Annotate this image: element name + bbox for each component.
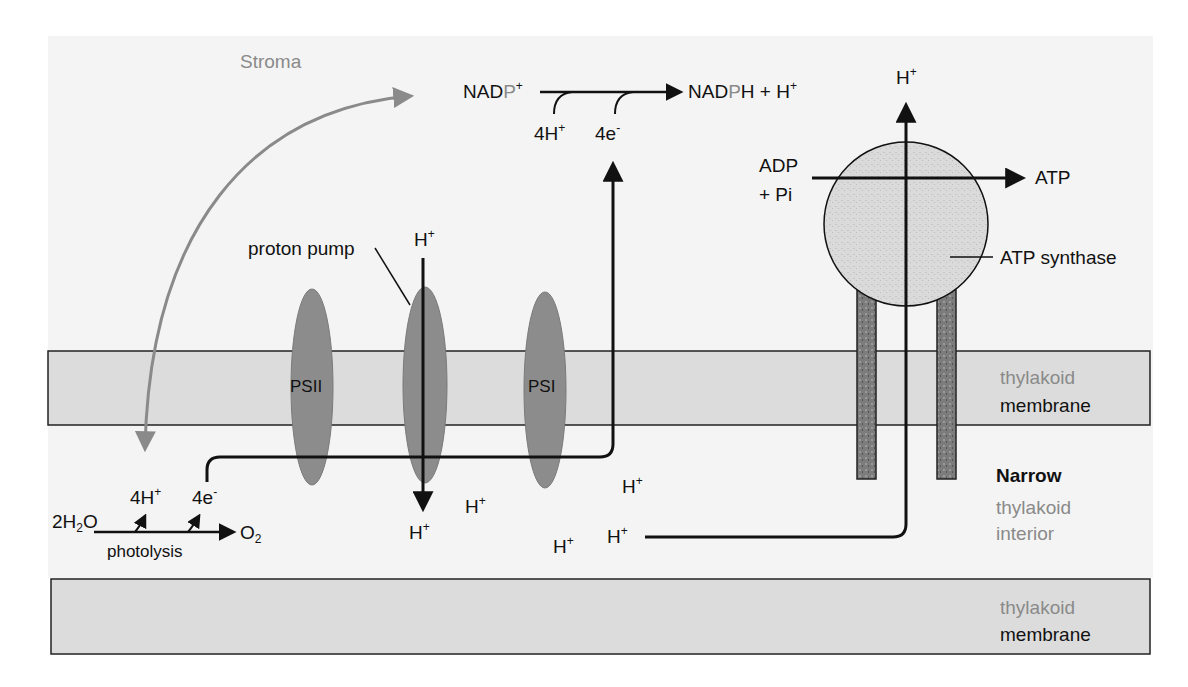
h-charge: + — [423, 520, 430, 534]
interior-label-2: thylakoid — [996, 498, 1071, 517]
nadp-electrons-label: 4e- — [595, 124, 620, 143]
water-o: O — [83, 511, 98, 532]
h-text: H — [414, 229, 428, 250]
h-text: H — [465, 496, 479, 517]
water-sub: 2 — [76, 521, 83, 535]
nadp-protons-text: 4H — [534, 123, 558, 144]
nadph-p: P — [728, 81, 741, 102]
oxygen-label: O2 — [240, 523, 261, 542]
interior-label-1: Narrow — [996, 466, 1061, 485]
h-text: H — [622, 476, 636, 497]
nadph-product-label: NADPH + H+ — [688, 82, 797, 101]
photolysis-electrons-charge: - — [213, 485, 217, 499]
proton-interior-4: H+ — [553, 537, 574, 556]
atp-synthase-stalk-right — [937, 290, 956, 479]
water-label: 2H2O — [52, 512, 98, 531]
proton-interior-1: H+ — [409, 523, 430, 542]
photolysis-electron-out — [188, 516, 199, 532]
photolysis-electrons-text: 4e — [192, 487, 213, 508]
atp-proton-out-label: H+ — [896, 68, 917, 87]
photolysis-protons-charge: + — [154, 485, 161, 499]
nadp-proton-input-curve — [554, 92, 572, 114]
atp-synthase-stalk-left — [857, 290, 876, 479]
h-text: H — [553, 536, 567, 557]
atp-proton-charge: + — [910, 65, 917, 79]
nadph-charge: + — [790, 79, 797, 93]
nadph-rest: H + H — [741, 81, 790, 102]
proton-pump-h-in: H+ — [414, 230, 435, 249]
adp-label: ADP — [759, 156, 798, 175]
h-charge: + — [479, 494, 486, 508]
h-text: H — [409, 522, 423, 543]
photolysis-electrons-label: 4e- — [192, 488, 217, 507]
thylakoid-membrane-top — [48, 351, 1150, 425]
stroma-label: Stroma — [240, 52, 301, 71]
h-charge: + — [621, 524, 628, 538]
proton-pump-label: proton pump — [248, 239, 355, 258]
nadp-reactant-charge: + — [516, 79, 523, 93]
proton-interior-3: H+ — [622, 477, 643, 496]
nadp-reactant-p: P — [503, 81, 516, 102]
atp-label: ATP — [1035, 168, 1071, 187]
psi-label: PSI — [528, 378, 555, 395]
h-charge: + — [567, 534, 574, 548]
oxygen-text: O — [240, 522, 255, 543]
oxygen-sub: 2 — [255, 532, 262, 546]
proton-pump-complex — [403, 287, 447, 483]
proton-interior-5: H+ — [607, 527, 628, 546]
h-charge: + — [636, 474, 643, 488]
h-text: H — [607, 526, 621, 547]
pi-label: + Pi — [759, 185, 792, 204]
membrane-bottom-label-1: thylakoid — [1000, 598, 1075, 617]
water-h: 2H — [52, 511, 76, 532]
photolysis-proton-out — [135, 516, 145, 532]
psii-label: PSII — [290, 378, 322, 395]
atp-proton-text: H — [896, 67, 910, 88]
photolysis-label: photolysis — [107, 543, 183, 560]
atp-synthase-label: ATP synthase — [1000, 248, 1117, 267]
nadp-reactant-label: NADP+ — [463, 82, 523, 101]
photolysis-protons-label: 4H+ — [130, 488, 161, 507]
thylakoid-diagram — [0, 0, 1188, 687]
nadp-protons-charge: + — [558, 121, 565, 135]
nadp-reactant-base: NAD — [463, 81, 503, 102]
membrane-top-label-2: membrane — [1000, 396, 1091, 415]
proton-interior-2: H+ — [465, 497, 486, 516]
nadp-electrons-charge: - — [616, 121, 620, 135]
membrane-bottom-label-2: membrane — [1000, 625, 1091, 644]
thylakoid-membrane-bottom — [51, 579, 1150, 654]
interior-label-3: interior — [996, 524, 1054, 543]
nadp-protons-label: 4H+ — [534, 124, 565, 143]
membrane-top-label-1: thylakoid — [1000, 368, 1075, 387]
nadp-electrons-text: 4e — [595, 123, 616, 144]
nadph-base: NAD — [688, 81, 728, 102]
h-charge: + — [428, 227, 435, 241]
nadp-electron-input-curve — [615, 92, 633, 114]
proton-pump-leader — [375, 248, 410, 305]
photolysis-protons-text: 4H — [130, 487, 154, 508]
